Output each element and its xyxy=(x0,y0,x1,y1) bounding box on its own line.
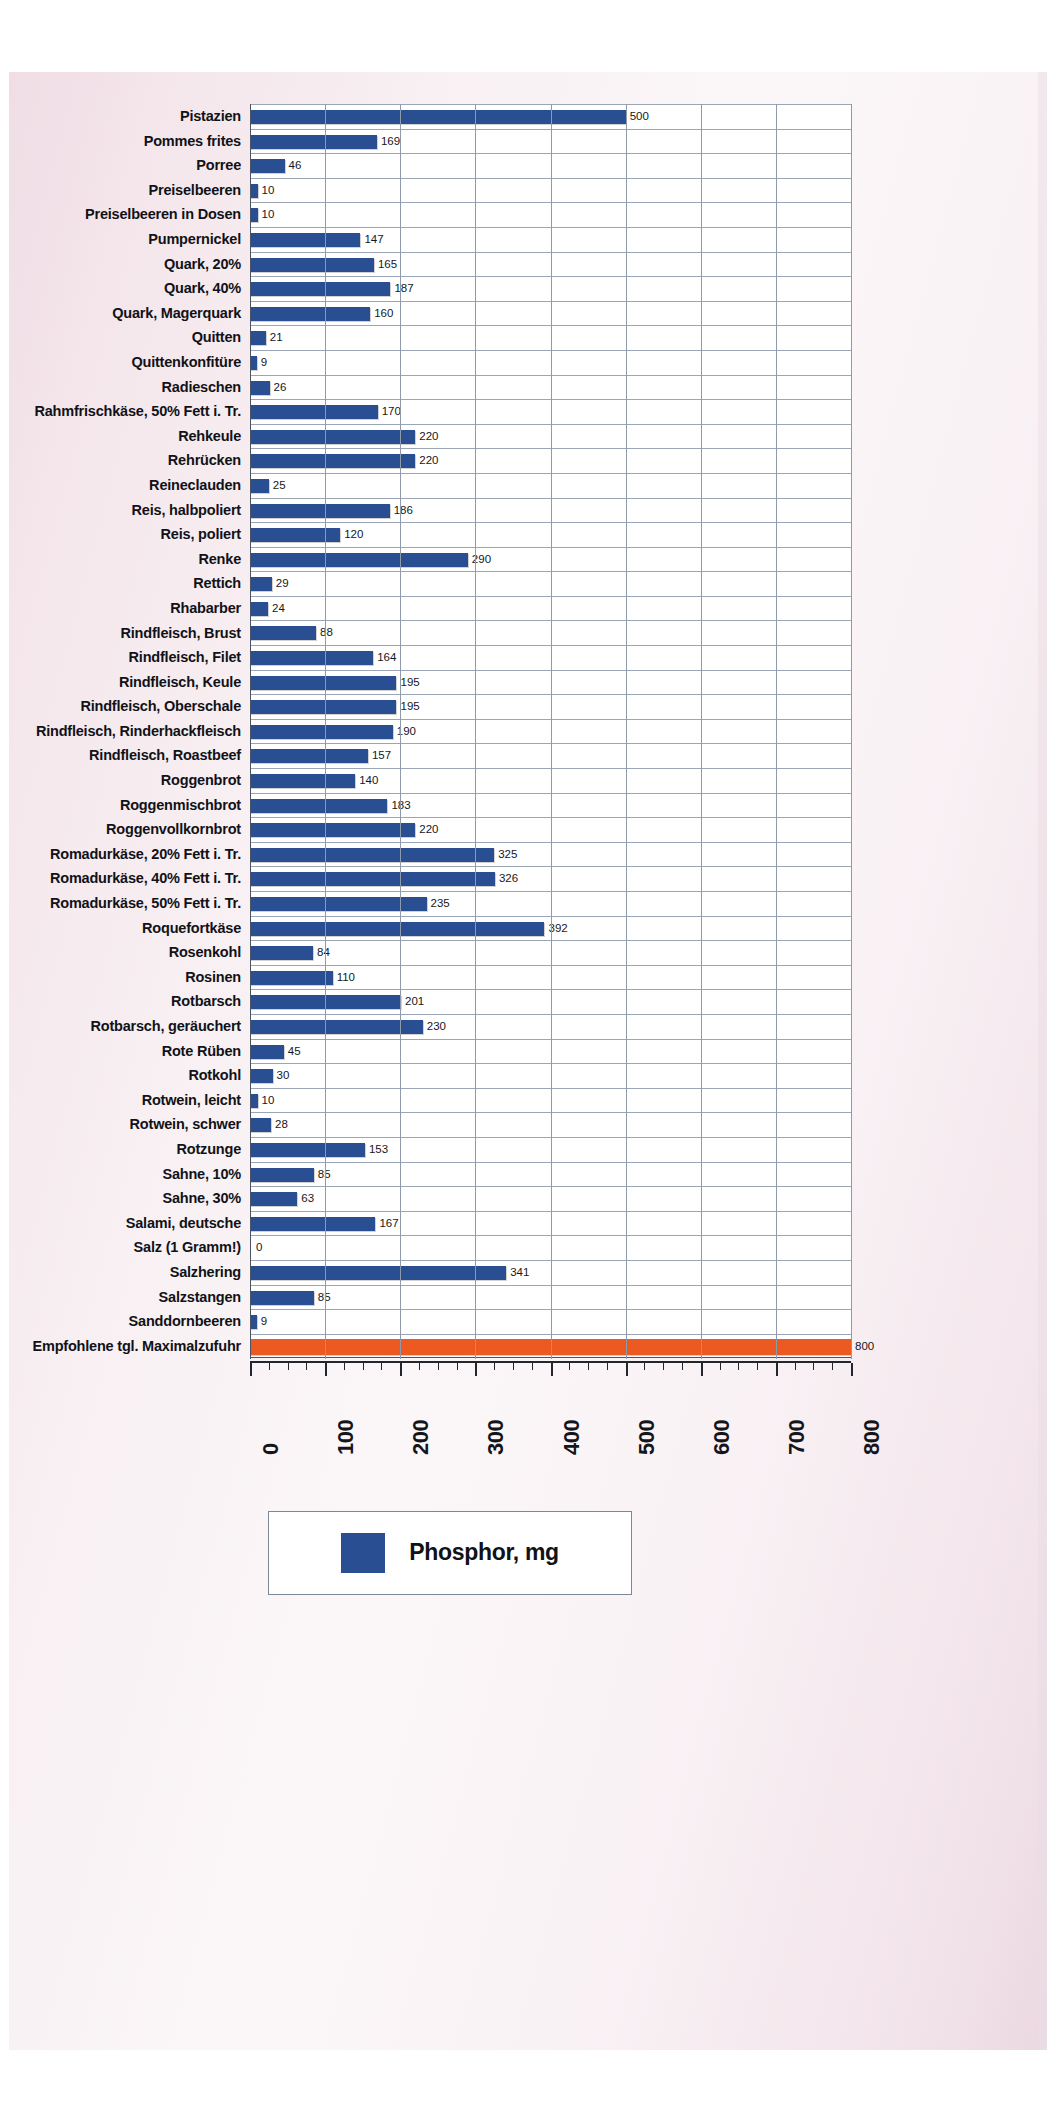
x-tick-label: 500 xyxy=(634,1419,660,1454)
axis-tick-major xyxy=(701,1363,703,1376)
chart-row: Rettich29 xyxy=(0,571,1057,596)
bar-track: 392 xyxy=(250,916,851,941)
chart-row: Rindfleisch, Keule195 xyxy=(0,670,1057,695)
value-bar xyxy=(250,946,313,960)
chart-row: Pommes frites169 xyxy=(0,129,1057,154)
category-label: Rhabarber xyxy=(0,601,250,616)
chart-row: Roggenbrot140 xyxy=(0,768,1057,793)
value-label: 26 xyxy=(274,380,287,394)
bar-track: 165 xyxy=(250,252,851,277)
bar-track: 10 xyxy=(250,202,851,227)
category-label: Rote Rüben xyxy=(0,1044,250,1059)
value-label: 110 xyxy=(337,970,355,984)
value-label: 10 xyxy=(262,1093,275,1107)
chart-row: Sanddornbeeren9 xyxy=(0,1309,1057,1334)
category-label: Salzhering xyxy=(0,1265,250,1280)
category-label: Rindfleisch, Rinderhackfleisch xyxy=(0,724,250,739)
value-bar xyxy=(250,528,340,542)
value-label: 220 xyxy=(419,822,438,836)
chart-row: Pumpernickel147 xyxy=(0,227,1057,252)
bar-track: 169 xyxy=(250,129,851,154)
category-label: Sahne, 30% xyxy=(0,1191,250,1206)
value-label: 165 xyxy=(378,257,397,271)
value-label: 341 xyxy=(510,1265,529,1279)
x-tick-label: 600 xyxy=(709,1419,735,1454)
category-label: Romadurkäse, 40% Fett i. Tr. xyxy=(0,871,250,886)
bar-track: 10 xyxy=(250,178,851,203)
value-label: 157 xyxy=(372,748,391,762)
value-bar xyxy=(250,1069,273,1083)
value-bar xyxy=(250,504,390,518)
value-bar xyxy=(250,430,415,444)
value-bar xyxy=(250,725,393,739)
value-bar xyxy=(250,872,495,886)
scan-top-margin xyxy=(0,0,1057,72)
axis-tick-minor xyxy=(532,1363,533,1370)
chart-row: Rindfleisch, Oberschale195 xyxy=(0,694,1057,719)
bar-track: 325 xyxy=(250,842,851,867)
value-bar xyxy=(250,405,378,419)
value-label: 85 xyxy=(318,1167,331,1181)
value-label: 25 xyxy=(273,478,286,492)
value-bar xyxy=(250,1192,297,1206)
category-label: Romadurkäse, 50% Fett i. Tr. xyxy=(0,896,250,911)
chart-row: Rehkeule220 xyxy=(0,424,1057,449)
category-label: Preiselbeeren xyxy=(0,183,250,198)
bar-track: 45 xyxy=(250,1039,851,1064)
value-label: 325 xyxy=(498,847,517,861)
chart-row: Rindfleisch, Rinderhackfleisch190 xyxy=(0,719,1057,744)
chart-row: Renke290 xyxy=(0,547,1057,572)
bar-track: 140 xyxy=(250,768,851,793)
bar-track: 201 xyxy=(250,989,851,1014)
bar-track: 235 xyxy=(250,891,851,916)
value-bar xyxy=(250,208,258,222)
chart-row: Preiselbeeren10 xyxy=(0,178,1057,203)
value-label: 195 xyxy=(400,675,419,689)
axis-tick-minor xyxy=(513,1363,514,1370)
chart-row: Rehrücken220 xyxy=(0,448,1057,473)
value-label: 230 xyxy=(427,1019,446,1033)
category-label: Rindfleisch, Oberschale xyxy=(0,699,250,714)
value-label: 164 xyxy=(377,650,396,664)
chart-row: Sahne, 10%85 xyxy=(0,1162,1057,1187)
x-axis-tick-labels: 0100200300400500600700800 xyxy=(250,1383,851,1479)
value-bar xyxy=(250,1094,258,1108)
axis-tick-major xyxy=(325,1363,327,1376)
value-label: 9 xyxy=(261,355,267,369)
value-bar xyxy=(250,381,270,395)
bar-track: 63 xyxy=(250,1186,851,1211)
axis-tick-major xyxy=(475,1363,477,1376)
x-tick-label: 200 xyxy=(408,1419,434,1454)
category-label: Roquefortkäse xyxy=(0,921,250,936)
chart-row: Rosinen110 xyxy=(0,965,1057,990)
value-label: 24 xyxy=(272,601,285,615)
value-label: 170 xyxy=(382,404,401,418)
category-label: Rotzunge xyxy=(0,1142,250,1157)
value-label: 9 xyxy=(261,1314,267,1328)
chart-row: Quitten21 xyxy=(0,325,1057,350)
category-label: Salz (1 Gramm!) xyxy=(0,1240,250,1255)
axis-tick-minor xyxy=(682,1363,683,1370)
chart-row: Rosenkohl84 xyxy=(0,940,1057,965)
chart-row: Quittenkonfitüre9 xyxy=(0,350,1057,375)
axis-tick-major xyxy=(776,1363,778,1376)
category-label: Rehrücken xyxy=(0,453,250,468)
category-label: Romadurkäse, 20% Fett i. Tr. xyxy=(0,847,250,862)
chart-row: Romadurkäse, 20% Fett i. Tr.325 xyxy=(0,842,1057,867)
value-bar xyxy=(250,1143,365,1157)
chart-row: Roquefortkäse392 xyxy=(0,916,1057,941)
value-bar xyxy=(250,676,396,690)
axis-tick-minor xyxy=(813,1363,814,1370)
category-label: Rettich xyxy=(0,576,250,591)
x-tick-label: 400 xyxy=(559,1419,585,1454)
value-bar xyxy=(250,135,377,149)
value-label: 220 xyxy=(419,429,438,443)
category-label: Rosinen xyxy=(0,970,250,985)
value-bar xyxy=(250,995,401,1009)
chart-row: Reis, halbpoliert186 xyxy=(0,498,1057,523)
category-label: Quark, Magerquark xyxy=(0,306,250,321)
chart-row: Empfohlene tgl. Maximalzufuhr800 xyxy=(0,1334,1057,1359)
chart-row: Rindfleisch, Filet164 xyxy=(0,645,1057,670)
category-label: Empfohlene tgl. Maximalzufuhr xyxy=(0,1339,250,1354)
category-label: Pistazien xyxy=(0,109,250,124)
